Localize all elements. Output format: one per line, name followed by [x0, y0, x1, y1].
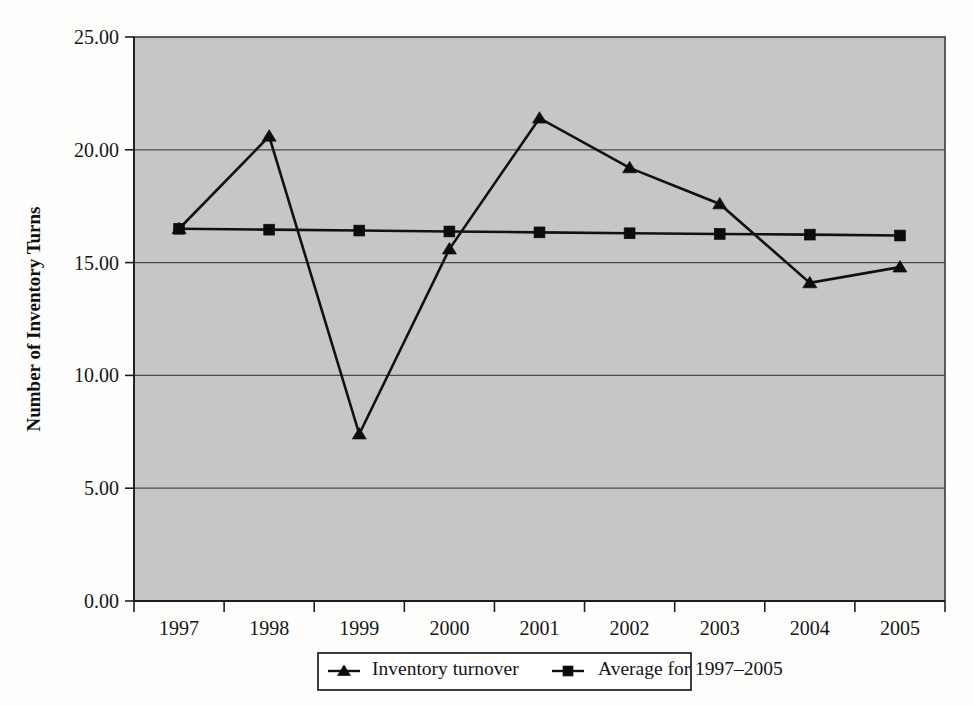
- square-marker: [714, 229, 725, 240]
- x-tick-label: 1998: [249, 617, 289, 639]
- square-marker: [444, 226, 455, 237]
- x-tick-label: 2000: [429, 617, 469, 639]
- y-tick-label: 0.00: [84, 590, 119, 612]
- square-marker: [624, 228, 635, 239]
- x-tick-label: 2002: [610, 617, 650, 639]
- x-tick-label: 2001: [520, 617, 560, 639]
- square-marker: [563, 666, 573, 676]
- x-tick-label: 2004: [790, 617, 830, 639]
- legend-label: Average for 1997–2005: [598, 658, 783, 679]
- chart-legend: Inventory turnoverAverage for 1997–2005: [318, 653, 783, 690]
- y-axis-title: Number of Inventory Turns: [23, 206, 44, 431]
- x-tick-label: 1997: [159, 617, 199, 639]
- chart-container: 0.005.0010.0015.0020.0025.00 19971998199…: [0, 0, 974, 705]
- y-tick-label: 15.00: [74, 252, 119, 274]
- x-tick-label: 2005: [880, 617, 920, 639]
- square-marker: [534, 227, 545, 238]
- inventory-turnover-line-chart: 0.005.0010.0015.0020.0025.00 19971998199…: [0, 0, 974, 705]
- x-axis-ticks: 199719981999200020012002200320042005: [134, 601, 945, 639]
- square-marker: [264, 224, 275, 235]
- square-marker: [895, 230, 906, 241]
- y-tick-label: 10.00: [74, 364, 119, 386]
- square-marker: [174, 223, 185, 234]
- y-tick-label: 25.00: [74, 26, 119, 48]
- y-tick-label: 5.00: [84, 477, 119, 499]
- y-tick-label: 20.00: [74, 139, 119, 161]
- square-marker: [354, 225, 365, 236]
- y-axis-ticks: 0.005.0010.0015.0020.0025.00: [74, 26, 134, 612]
- x-tick-label: 1999: [339, 617, 379, 639]
- x-tick-label: 2003: [700, 617, 740, 639]
- square-marker: [804, 229, 815, 240]
- legend-label: Inventory turnover: [372, 658, 519, 679]
